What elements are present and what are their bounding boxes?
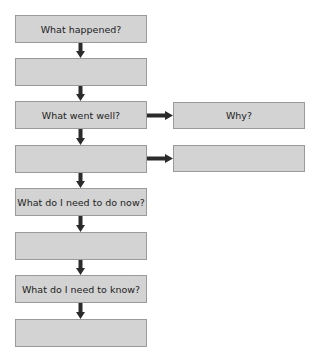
arrow-down-icon [76,173,85,188]
box-blank-3 [15,232,147,260]
box-blank-right [173,145,305,172]
arrow-down-icon [76,129,85,145]
box-blank-4 [15,319,147,347]
box-what-happened: What happened? [15,15,147,43]
box-label: What do I need to do now? [17,197,145,208]
arrow-down-icon [76,303,85,319]
arrow-down-icon [76,86,85,101]
arrow-down-icon [76,216,85,232]
arrow-down-icon [76,260,85,275]
box-why: Why? [173,102,305,129]
box-what-went-well: What went well? [15,101,147,129]
box-label: What happened? [41,24,122,35]
box-blank-1 [15,58,147,86]
box-label: What do I need to know? [22,284,140,295]
arrow-down-icon [76,43,85,58]
box-what-to-do-now: What do I need to do now? [15,188,147,216]
box-what-to-know: What do I need to know? [15,275,147,303]
box-label: Why? [226,110,252,121]
arrow-right-icon [147,154,173,163]
box-blank-2 [15,145,147,173]
box-label: What went well? [42,110,120,121]
arrow-right-icon [147,111,173,120]
